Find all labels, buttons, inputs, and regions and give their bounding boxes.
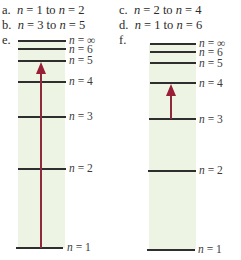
choice-letter: a.	[2, 3, 11, 17]
level-line-2	[148, 170, 196, 172]
level-label-1: n = 1	[67, 241, 91, 253]
level-line-2	[18, 168, 66, 170]
choice-b: b. n = 3 to n = 5	[2, 18, 85, 32]
choice-to: 5	[79, 18, 85, 32]
transition-arrow-shaft	[170, 95, 172, 119]
level-label-5: n = 5	[69, 54, 93, 66]
choice-letter: c.	[119, 3, 128, 17]
choice-to: 6	[196, 18, 202, 32]
choice-to: 4	[195, 3, 201, 17]
choice-to: 2	[78, 3, 84, 17]
level-label-3: n = 3	[199, 113, 223, 125]
level-label-3: n = 3	[69, 110, 93, 122]
level-label-2: n = 2	[69, 162, 93, 174]
equals: =	[24, 18, 37, 32]
equals: =	[182, 3, 195, 17]
equals: =	[140, 3, 153, 17]
arrow-up-icon	[166, 84, 176, 96]
level-line-3	[18, 116, 66, 118]
arrow-up-icon	[36, 62, 46, 74]
equals: =	[183, 18, 196, 32]
to-word: to	[160, 3, 176, 17]
level-line-1	[147, 249, 195, 251]
level-label-4: n = 4	[199, 77, 223, 89]
to-word: to	[43, 3, 59, 17]
diagram-letter: f.	[119, 33, 126, 48]
equals: =	[141, 18, 154, 32]
level-label-2: n = 2	[199, 164, 223, 176]
level-label-5: n = 5	[199, 57, 223, 69]
level-line-5	[150, 62, 196, 64]
level-line-6	[150, 51, 196, 53]
equals: =	[65, 3, 78, 17]
transition-arrow-shaft	[40, 72, 42, 248]
equals: =	[23, 3, 36, 17]
shaded-band	[149, 44, 196, 249]
level-line-4	[18, 81, 66, 83]
diagram-letter: e.	[2, 33, 11, 48]
to-word: to	[160, 18, 176, 32]
level-label-4: n = 4	[69, 75, 93, 87]
choice-a: a. n = 1 to n = 2	[2, 3, 85, 17]
level-line-3	[149, 118, 196, 120]
choice-d: d. n = 1 to n = 6	[119, 18, 202, 32]
equals: =	[66, 18, 79, 32]
level-label-1: n = 1	[198, 243, 222, 255]
choice-letter: b.	[2, 18, 11, 32]
to-word: to	[43, 18, 59, 32]
choice-letter: d.	[119, 18, 128, 32]
choice-c: c. n = 2 to n = 4	[119, 3, 202, 17]
level-line-inf	[18, 40, 66, 42]
level-line-inf	[150, 43, 196, 45]
level-line-6	[18, 48, 66, 50]
